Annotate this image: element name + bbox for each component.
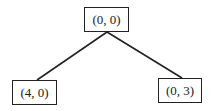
edge-root-left bbox=[37, 32, 107, 80]
left-node-label: (4, 0) bbox=[20, 85, 48, 101]
right-node-label: (0, 3) bbox=[166, 83, 194, 99]
left-child-node: (4, 0) bbox=[12, 80, 57, 105]
root-node: (0, 0) bbox=[84, 7, 129, 32]
root-node-label: (0, 0) bbox=[92, 12, 120, 28]
edge-root-right bbox=[107, 32, 182, 78]
right-child-node: (0, 3) bbox=[158, 78, 202, 103]
